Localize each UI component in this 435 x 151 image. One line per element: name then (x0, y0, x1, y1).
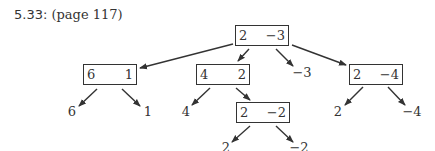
edge-root-n2 (238, 49, 249, 61)
tree-node-n2: 4 2 (196, 64, 250, 85)
node-value-left: 4 (200, 67, 208, 82)
edge-root-n3 (292, 45, 346, 65)
node-value-right: 1 (125, 67, 133, 82)
tree-node-n1: 6 1 (83, 64, 137, 85)
leaf-n3-left: 2 (334, 104, 342, 119)
edge-n4-left (232, 126, 250, 142)
edge-root-leaf (276, 49, 293, 66)
node-value-right: −3 (266, 28, 285, 43)
leaf-n1-left: 6 (68, 104, 76, 119)
node-value-left: 6 (87, 67, 95, 82)
node-value-left: 2 (353, 67, 361, 82)
tree-node-n3: 2 −4 (349, 64, 403, 85)
leaf-n3-right: −4 (402, 104, 421, 119)
edge-n2-n4 (236, 88, 250, 100)
edge-n2-left (192, 88, 210, 105)
edge-n3-left (345, 87, 363, 105)
node-value-right: −4 (380, 67, 399, 82)
node-value-right: 2 (238, 67, 246, 82)
leaf-n4-left: 2 (222, 140, 230, 151)
edge-n1-left (79, 89, 97, 106)
node-value-right: −2 (267, 105, 286, 120)
edge-n3-right (388, 87, 405, 105)
leaf-n4-right: −2 (289, 140, 308, 151)
leaf-n1-right: 1 (144, 104, 152, 119)
leaf-n2-left: 4 (182, 104, 190, 119)
tree-node-root: 2 −3 (235, 25, 289, 46)
node-value-left: 2 (239, 28, 247, 43)
node-value-left: 2 (240, 105, 248, 120)
leaf-root-middle: −3 (292, 65, 311, 80)
tree-node-n4: 2 −2 (236, 102, 290, 123)
edge-n1-right (122, 89, 140, 106)
